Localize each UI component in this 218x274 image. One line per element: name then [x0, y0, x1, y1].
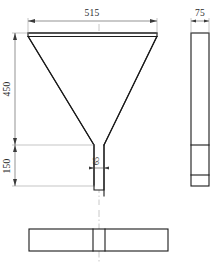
right-side-view: [191, 33, 209, 186]
dimension-thickness: 75: [191, 8, 209, 34]
front-elevation-view: [28, 33, 157, 196]
side-view-outline: [191, 33, 209, 186]
arrow-right-75: [204, 20, 209, 23]
arrow-right-515: [150, 19, 157, 23]
arrow-bottom-450: [13, 138, 17, 145]
arrow-right-65: [104, 167, 109, 170]
arrow-bottom-150: [13, 179, 17, 186]
bottom-plan-view: [29, 229, 168, 251]
arrow-top-450: [13, 33, 17, 40]
dim-label-neck-width: 65: [92, 157, 101, 165]
dim-label-lower-height: 150: [2, 158, 12, 173]
dim-label-upper-height: 450: [2, 81, 12, 96]
arrow-left-515: [28, 19, 35, 23]
engineering-drawing-canvas: 515 450 150 65: [0, 0, 218, 274]
dimension-top-width: 515: [28, 8, 157, 34]
arrow-top-150: [13, 145, 17, 152]
dimension-lower-height: 150: [2, 145, 95, 186]
funnel-outline: [28, 33, 157, 190]
dim-label-top-width: 515: [84, 8, 99, 18]
arrow-left-65: [89, 167, 94, 170]
plan-view-outline: [29, 229, 168, 251]
dim-label-thickness: 75: [195, 8, 205, 18]
arrow-left-75: [191, 20, 196, 23]
drawing-svg: 515 450 150 65: [0, 0, 218, 274]
